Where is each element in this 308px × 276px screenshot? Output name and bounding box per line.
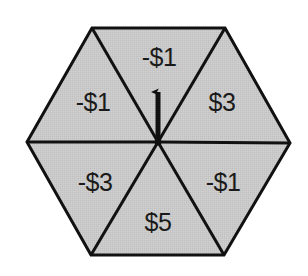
spinner-svg bbox=[0, 0, 308, 276]
divider-to-right-vertex bbox=[158, 142, 290, 143]
arrow-pivot bbox=[155, 139, 162, 146]
spinner-pointer-arrow bbox=[155, 92, 162, 145]
spinner-figure: -$1 $3 -$1 $5 -$3 -$1 bbox=[0, 0, 308, 276]
